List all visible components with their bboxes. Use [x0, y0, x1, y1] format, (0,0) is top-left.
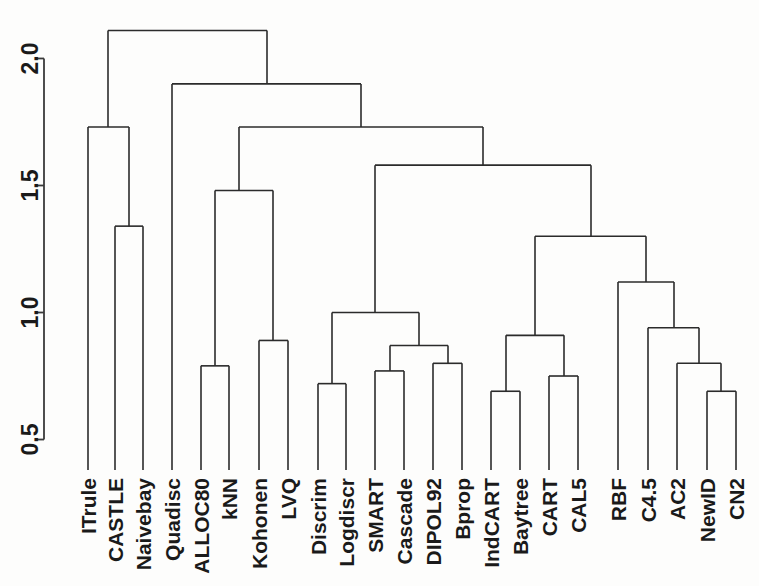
dendrogram-tree	[88, 31, 736, 470]
leaf-label-c4-5: C4.5	[637, 478, 660, 523]
leaf-label-quadisc: Quadisc	[161, 478, 184, 561]
leaf-label-ac2: AC2	[666, 478, 689, 520]
dendrogram-figure: 0.51.01.52.0 ITruleCASTLENaivebayQuadisc…	[0, 0, 759, 586]
leaf-labels: ITruleCASTLENaivebayQuadiscALLOC80kNNKoh…	[77, 478, 748, 574]
leaf-label-cascade: Cascade	[393, 478, 416, 564]
axis-tick-label: 1.5	[17, 169, 43, 201]
leaf-label-bprop: Bprop	[451, 478, 474, 540]
leaf-label-cn2: CN2	[725, 478, 748, 520]
leaf-label-lvq: LVQ	[277, 478, 300, 520]
leaf-label-knn: kNN	[218, 478, 241, 520]
leaf-label-itrule: ITrule	[77, 478, 100, 534]
leaf-label-baytree: Baytree	[509, 478, 532, 555]
dendrogram-plot: 0.51.01.52.0 ITruleCASTLENaivebayQuadisc…	[0, 0, 759, 586]
axis-tick-label: 2.0	[17, 42, 43, 74]
leaf-label-logdiscr: Logdiscr	[335, 478, 358, 567]
leaf-label-castle: CASTLE	[104, 478, 127, 562]
leaf-label-dipol92: DIPOL92	[422, 478, 445, 566]
leaf-label-discrim: Discrim	[307, 478, 330, 555]
leaf-label-cart: CART	[538, 478, 561, 536]
leaf-label-cal5: CAL5	[567, 478, 590, 533]
leaf-label-kohonen: Kohonen	[248, 478, 271, 569]
leaf-label-alloc80: ALLOC80	[190, 478, 213, 574]
leaf-label-rbf: RBF	[607, 478, 630, 521]
leaf-label-newid: NewID	[696, 478, 719, 542]
height-axis: 0.51.01.52.0	[17, 42, 44, 455]
leaf-label-smart: SMART	[364, 478, 387, 553]
axis-tick-label: 1.0	[17, 297, 43, 329]
axis-tick-label: 0.5	[17, 423, 43, 455]
leaf-label-naivebay: Naivebay	[132, 478, 155, 571]
leaf-label-indcart: IndCART	[480, 478, 503, 568]
